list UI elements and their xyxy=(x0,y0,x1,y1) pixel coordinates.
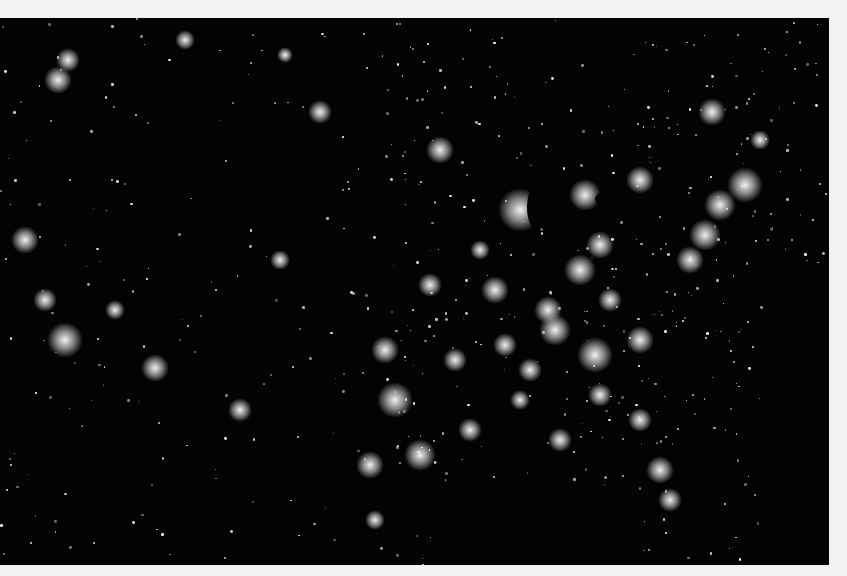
small-light xyxy=(668,90,670,92)
small-light xyxy=(215,469,216,470)
small-light xyxy=(373,236,376,239)
small-light xyxy=(672,310,673,311)
small-light xyxy=(694,413,696,415)
small-light xyxy=(563,167,566,170)
small-light xyxy=(200,315,202,317)
small-light xyxy=(253,438,256,441)
city-light xyxy=(356,451,384,479)
small-light xyxy=(659,311,660,312)
small-light xyxy=(487,275,488,276)
city-light xyxy=(510,390,530,410)
small-light xyxy=(654,314,655,315)
small-light xyxy=(622,438,624,440)
small-light xyxy=(215,289,217,291)
lake-shape xyxy=(640,200,690,214)
small-light xyxy=(430,537,431,538)
small-light xyxy=(297,436,299,438)
small-light xyxy=(711,75,714,78)
small-light xyxy=(335,378,336,379)
small-light xyxy=(342,136,344,138)
city-light xyxy=(676,246,704,274)
city-light xyxy=(646,456,674,484)
small-light xyxy=(438,249,439,250)
small-light xyxy=(445,312,448,315)
small-light xyxy=(14,453,15,454)
small-light xyxy=(98,364,101,367)
small-light xyxy=(641,380,643,382)
small-light xyxy=(249,245,251,247)
small-light xyxy=(408,436,409,437)
small-light xyxy=(611,268,614,271)
small-light xyxy=(232,102,234,104)
small-light xyxy=(430,250,431,251)
small-light xyxy=(69,546,72,549)
small-light xyxy=(650,162,651,163)
small-light xyxy=(287,102,289,104)
small-light xyxy=(664,330,667,333)
small-light xyxy=(545,145,547,147)
small-light xyxy=(343,373,346,376)
small-light xyxy=(357,450,360,453)
small-light xyxy=(786,149,788,151)
small-light xyxy=(0,190,2,192)
small-light xyxy=(586,311,587,312)
small-light xyxy=(660,248,662,250)
small-light xyxy=(405,179,406,180)
small-light xyxy=(660,440,663,443)
small-light xyxy=(816,74,818,76)
small-light xyxy=(648,145,651,148)
small-light xyxy=(504,369,505,370)
city-light xyxy=(564,254,596,286)
small-light xyxy=(623,330,626,333)
small-light xyxy=(637,318,639,320)
small-light xyxy=(580,436,582,438)
small-light xyxy=(706,332,709,335)
small-light xyxy=(735,106,738,109)
small-light xyxy=(601,131,603,133)
small-light xyxy=(604,484,605,485)
small-light xyxy=(475,121,478,124)
small-light xyxy=(423,61,425,63)
small-light xyxy=(638,365,639,366)
city-light xyxy=(493,333,517,357)
small-light xyxy=(26,140,27,141)
small-light xyxy=(420,181,422,183)
small-light xyxy=(677,428,679,430)
small-light xyxy=(514,316,516,318)
small-light xyxy=(498,135,500,137)
small-light xyxy=(182,319,183,320)
small-light xyxy=(431,222,433,224)
small-light xyxy=(812,219,814,221)
small-light xyxy=(676,322,677,323)
small-light xyxy=(496,76,497,77)
small-light xyxy=(9,458,11,460)
small-light xyxy=(725,429,726,430)
small-light xyxy=(55,531,56,532)
small-light xyxy=(111,25,114,28)
small-light xyxy=(603,325,605,327)
small-light xyxy=(442,432,444,434)
small-light xyxy=(412,48,414,50)
small-light xyxy=(793,102,795,104)
small-light xyxy=(69,408,71,410)
small-light xyxy=(106,210,107,211)
small-light xyxy=(806,260,808,262)
small-light xyxy=(96,248,98,250)
small-light xyxy=(800,214,801,215)
small-light xyxy=(410,46,412,48)
small-light xyxy=(772,227,774,229)
small-light xyxy=(665,436,668,439)
small-light xyxy=(391,144,392,145)
small-light xyxy=(663,518,665,520)
small-light xyxy=(688,292,689,293)
small-light xyxy=(402,155,404,157)
small-light xyxy=(615,268,617,270)
small-light xyxy=(787,144,789,146)
small-light xyxy=(93,208,94,209)
small-light xyxy=(500,318,502,320)
small-light xyxy=(456,386,458,388)
small-light xyxy=(744,483,747,486)
small-light xyxy=(333,433,334,434)
small-light xyxy=(793,22,795,24)
small-light xyxy=(636,239,638,241)
